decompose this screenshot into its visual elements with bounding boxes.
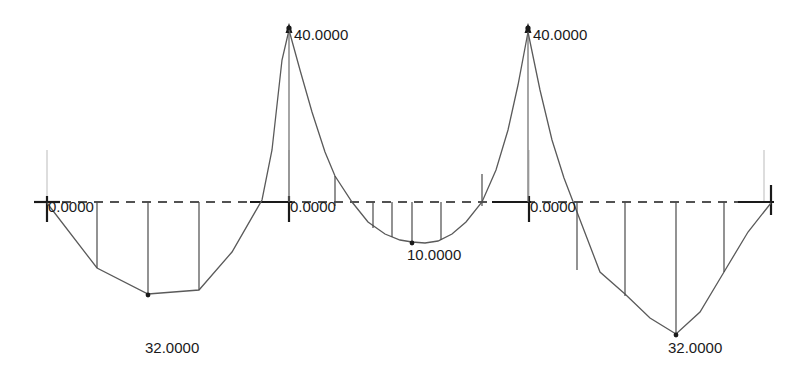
label-sag-right: 32.0000 (668, 340, 722, 355)
support-ticks (47, 185, 771, 222)
span-left-moment-curve (47, 30, 289, 294)
label-sag-left: 32.0000 (145, 340, 199, 355)
label-peak-right: 40.0000 (533, 27, 587, 42)
label-support-mid-right: 0.0000 (530, 199, 576, 214)
peak-right-group (525, 23, 532, 202)
peak-left-group (286, 23, 293, 202)
label-sag-mid: 10.0000 (407, 247, 461, 262)
sag-mid-node (410, 241, 415, 246)
span-left-ordinates (97, 202, 199, 294)
bending-moment-diagram-canvas: 0.0000 32.0000 40.0000 0.0000 10.0000 40… (0, 0, 808, 382)
axis-end-ticks (47, 150, 764, 202)
diagram-graphics (0, 0, 808, 382)
sag-right-node (674, 333, 679, 338)
sag-left-node (146, 293, 151, 298)
label-peak-left: 40.0000 (294, 27, 348, 42)
label-support-mid-left: 0.0000 (290, 199, 336, 214)
label-support-left: 0.0000 (48, 199, 94, 214)
span-right-moment-curve (528, 32, 771, 334)
